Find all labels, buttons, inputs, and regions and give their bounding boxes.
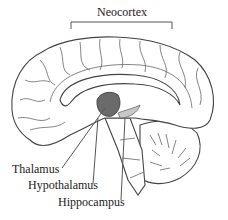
label-neocortex: Neocortex: [97, 6, 147, 18]
label-hippocampus: Hippocampus: [58, 196, 125, 208]
brainstem: [105, 118, 145, 195]
label-thalamus: Thalamus: [12, 163, 59, 175]
hypothalamus-leader: [93, 118, 98, 184]
neocortex-bracket: [71, 22, 172, 29]
cerebellum: [140, 121, 200, 184]
label-hypothalamus: Hypothalamus: [28, 179, 98, 191]
thalamus: [97, 92, 120, 116]
